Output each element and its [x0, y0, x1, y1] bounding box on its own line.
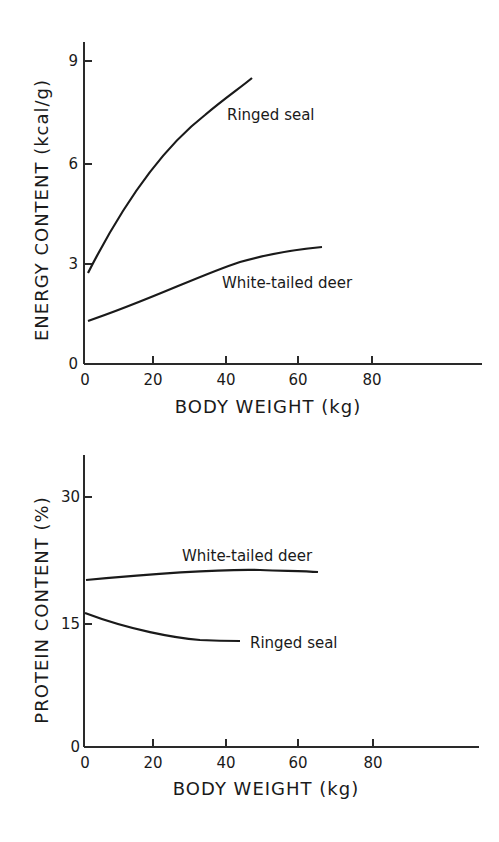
x-tick-label: 40	[216, 371, 235, 389]
x-tick-label: 80	[362, 371, 381, 389]
x-tick-label: 0	[80, 371, 90, 389]
y-tick-label: 6	[68, 155, 78, 173]
y-tick-label: 15	[61, 615, 80, 633]
figure: 9 6 3 0 0 20 40 60 80 BODY WEIGHT (kg) E…	[0, 0, 499, 842]
x-tick-label: 20	[143, 371, 162, 389]
y-axis-label: ENERGY CONTENT (kcal/g)	[31, 79, 52, 341]
x-axis-label: BODY WEIGHT (kg)	[175, 396, 361, 417]
label-ringed-seal: Ringed seal	[250, 634, 338, 652]
x-tick-label: 80	[363, 754, 382, 772]
y-tick-label: 0	[68, 355, 78, 373]
x-tick-label: 60	[288, 371, 307, 389]
x-tick-label: 40	[216, 754, 235, 772]
x-axis-label: BODY WEIGHT (kg)	[173, 778, 359, 799]
x-tick-label: 0	[80, 754, 90, 772]
curve-ringed-seal	[85, 613, 240, 641]
protein-chart: 30 15 0 0 20 40 60 80 BODY WEIGHT (kg) P…	[31, 455, 479, 799]
label-ringed-seal: Ringed seal	[227, 106, 315, 124]
y-tick-label: 3	[68, 255, 78, 273]
energy-chart: 9 6 3 0 0 20 40 60 80 BODY WEIGHT (kg) E…	[31, 42, 482, 417]
label-white-tailed-deer: White-tailed deer	[182, 547, 313, 565]
y-tick-label: 0	[70, 738, 80, 756]
x-tick-label: 20	[143, 754, 162, 772]
y-tick-label: 9	[68, 52, 78, 70]
curve-white-tailed-deer	[86, 570, 318, 580]
y-tick-label: 30	[61, 488, 80, 506]
y-axis-label: PROTEIN CONTENT (%)	[31, 496, 52, 723]
x-tick-label: 60	[288, 754, 307, 772]
label-white-tailed-deer: White-tailed deer	[222, 274, 353, 292]
